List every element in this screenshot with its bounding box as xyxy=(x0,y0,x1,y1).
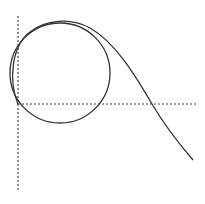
diagram-svg xyxy=(0,0,205,204)
diagram-canvas xyxy=(0,0,205,204)
